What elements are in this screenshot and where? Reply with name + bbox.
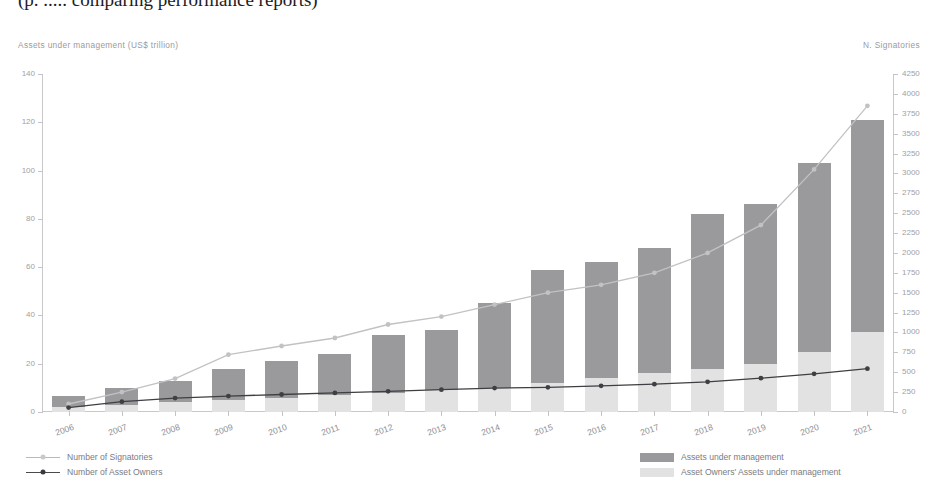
x-tick-label: 2011: [320, 422, 341, 437]
x-tick-mark: [548, 411, 549, 416]
x-tick-mark: [69, 411, 70, 416]
data-point: [279, 344, 284, 349]
data-point: [173, 396, 178, 401]
x-tick-label: 2009: [213, 422, 234, 438]
right-tick-label: 250: [902, 388, 915, 396]
data-point: [759, 376, 764, 381]
data-point: [120, 399, 125, 404]
x-tick-label: 2017: [639, 422, 660, 438]
x-tick-label: 2010: [266, 422, 287, 438]
x-tick-label: 2006: [53, 422, 74, 438]
data-point: [652, 270, 657, 275]
left-tick-label: 140: [22, 70, 35, 78]
left-tick-label: 100: [22, 167, 35, 175]
left-tick-label: 40: [26, 311, 35, 319]
data-point: [439, 314, 444, 319]
right-tick-label: 1000: [902, 328, 920, 336]
legend-item[interactable]: Asset Owners' Assets under management: [640, 467, 841, 477]
x-tick-mark: [122, 411, 123, 416]
x-tick-mark: [282, 411, 283, 416]
left-axis-caption: Assets under management (US$ trillion): [18, 40, 178, 50]
data-point: [226, 394, 231, 399]
right-tick-label: 1750: [902, 269, 920, 277]
data-point: [865, 103, 870, 108]
data-point: [546, 385, 551, 390]
data-point: [812, 371, 817, 376]
data-point: [66, 405, 71, 410]
right-tick-label: 750: [902, 348, 915, 356]
left-tick-mark: [38, 412, 43, 413]
legend-item[interactable]: Number of Asset Owners: [26, 467, 163, 477]
x-tick-mark: [601, 411, 602, 416]
right-tick-label: 2250: [902, 229, 920, 237]
right-tick-label: 1250: [902, 309, 920, 317]
x-tick-label: 2015: [533, 422, 554, 438]
x-tick-mark: [335, 411, 336, 416]
right-tick-label: 4000: [902, 90, 920, 98]
data-point: [599, 383, 604, 388]
right-tick-label: 3000: [902, 169, 920, 177]
right-tick-label: 2000: [902, 249, 920, 257]
right-tick-label: 2500: [902, 209, 920, 217]
line-group: [42, 74, 894, 412]
x-tick-mark: [814, 411, 815, 416]
x-tick-label: 2008: [160, 422, 181, 438]
x-tick-label: 2021: [852, 422, 873, 438]
right-tick-label: 4250: [902, 70, 920, 78]
x-tick-mark: [175, 411, 176, 416]
right-axis-caption: N. Signatories: [863, 40, 920, 50]
data-point: [439, 387, 444, 392]
legend-line-swatch: [26, 468, 60, 477]
legend-box-swatch: [640, 468, 674, 477]
data-point: [705, 251, 710, 256]
legend-label: Number of Signatories: [67, 452, 153, 462]
right-tick-label: 0: [902, 408, 906, 416]
right-tick-label: 3500: [902, 130, 920, 138]
x-tick-mark: [441, 411, 442, 416]
left-tick-label: 120: [22, 118, 35, 126]
legend-item[interactable]: Number of Signatories: [26, 452, 163, 462]
legend-label: Asset Owners' Assets under management: [681, 467, 841, 477]
x-tick-mark: [654, 411, 655, 416]
legend-label: Number of Asset Owners: [67, 467, 163, 477]
data-point: [173, 376, 178, 381]
data-point: [546, 290, 551, 295]
left-tick-label: 0: [31, 408, 35, 416]
data-point: [652, 382, 657, 387]
x-tick-label: 2012: [373, 422, 394, 438]
chart-figure: (p. ..... comparing performance reports)…: [0, 0, 938, 486]
legend-box-swatch: [640, 453, 674, 462]
left-tick-label: 20: [26, 360, 35, 368]
data-point: [386, 322, 391, 327]
data-point: [599, 282, 604, 287]
line-number-of-asset-owners: [69, 369, 868, 408]
clipped-title-text: (p. ..... comparing performance reports): [18, 0, 658, 11]
legend-lines: Number of SignatoriesNumber of Asset Own…: [26, 452, 163, 482]
right-tick-label: 1500: [902, 289, 920, 297]
data-point: [333, 391, 338, 396]
data-point: [865, 366, 870, 371]
line-number-of-signatories: [69, 106, 868, 404]
x-tick-label: 2018: [692, 422, 713, 438]
legend-item[interactable]: Assets under management: [640, 452, 841, 462]
x-tick-mark: [761, 411, 762, 416]
x-tick-mark: [228, 411, 229, 416]
left-tick-label: 60: [26, 263, 35, 271]
x-tick-mark: [867, 411, 868, 416]
right-tick-label: 2750: [902, 189, 920, 197]
right-tick-label: 500: [902, 368, 915, 376]
x-tick-mark: [708, 411, 709, 416]
data-point: [492, 386, 497, 391]
data-point: [279, 392, 284, 397]
data-point: [705, 379, 710, 384]
x-tick-label: 2014: [479, 422, 500, 438]
x-tick-label: 2016: [586, 422, 607, 438]
data-point: [120, 390, 125, 395]
data-point: [333, 336, 338, 341]
left-tick-label: 80: [26, 215, 35, 223]
legend-bars: Assets under managementAsset Owners' Ass…: [640, 452, 841, 482]
right-tick-label: 3250: [902, 150, 920, 158]
legend-label: Assets under management: [681, 452, 784, 462]
data-point: [759, 223, 764, 228]
x-tick-label: 2007: [107, 422, 128, 438]
